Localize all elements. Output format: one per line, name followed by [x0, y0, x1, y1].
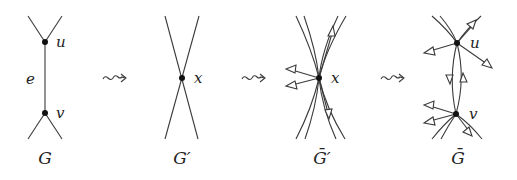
squiggle-icon	[103, 76, 125, 80]
label-x: x	[331, 69, 340, 87]
label-e: e	[26, 70, 35, 88]
edge-u-upper-left	[28, 16, 45, 42]
edge-uv-right	[456, 43, 461, 114]
caption-g: G	[38, 148, 52, 168]
arrow-shaft-down	[319, 78, 328, 113]
arrow-head-u-right-icon	[482, 59, 492, 68]
edge-uv-left	[452, 43, 457, 114]
arrow-shaft-v-left-1	[430, 106, 456, 114]
arrow-head-up-icon	[328, 26, 335, 36]
curve-u-1	[432, 16, 457, 43]
vertex-v	[42, 110, 48, 116]
caption-g-bar: Ḡ	[451, 147, 465, 168]
panel-g-bar: u v Ḡ	[424, 16, 492, 168]
label-x: x	[194, 69, 203, 87]
caption-g-bar-prime: Ḡ′	[313, 147, 331, 168]
panel-g-bar-prime: x Ḡ′	[286, 16, 346, 168]
label-v: v	[469, 105, 478, 123]
transition-arrow-3	[381, 74, 404, 82]
panel-g: u e v G	[26, 16, 66, 168]
vertex-x	[179, 75, 185, 81]
vertex-u	[454, 40, 460, 46]
transition-arrow-1	[103, 74, 126, 82]
arrow-head-v-left-1-icon	[424, 101, 434, 109]
vertex-u	[42, 39, 48, 45]
label-u: u	[470, 34, 480, 52]
arrow-shaft-left-1	[292, 70, 319, 78]
arrow-head-left-1-icon	[286, 65, 296, 73]
vertex-x	[316, 75, 322, 81]
diagram-canvas: u e v G x G′ x Ḡ′	[0, 0, 517, 180]
arrow-head-left-2-icon	[286, 81, 297, 89]
arrow-head-v-left-2-icon	[424, 117, 435, 125]
arrow-head-u-up-icon	[467, 20, 476, 29]
edge-v-lower-left	[28, 113, 45, 139]
squiggle-icon	[381, 76, 403, 80]
squiggle-icon	[242, 76, 264, 80]
label-v: v	[56, 104, 65, 122]
arrow-head-v-down-icon	[463, 127, 472, 136]
transition-arrow-2	[242, 74, 265, 82]
caption-g-prime: G′	[173, 148, 191, 168]
vertex-v	[453, 111, 459, 117]
panel-g-prime: x G′	[165, 16, 203, 168]
label-u: u	[56, 33, 66, 51]
arrow-head-u-left-icon	[424, 47, 435, 55]
